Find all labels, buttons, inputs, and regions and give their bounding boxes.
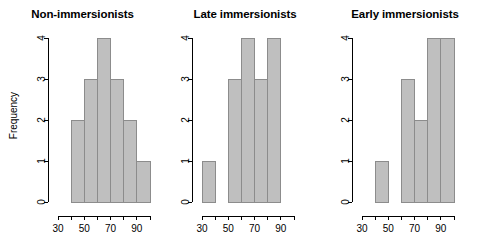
x-axis-tick-label: 70 xyxy=(105,223,117,234)
histogram-bar xyxy=(111,79,124,202)
histogram-figure: Non-immersionists Frequency 012343050709… xyxy=(0,0,485,246)
histogram-bar xyxy=(84,79,97,202)
x-axis-tick-label: 70 xyxy=(249,223,261,234)
panel-late-immersionists: Late immersionists 0123430507090 xyxy=(165,0,325,246)
y-axis-tick-label: 4 xyxy=(36,35,47,41)
x-axis-tick-label: 90 xyxy=(131,223,143,234)
plot-svg: 0123430507090 xyxy=(0,0,165,246)
plot-svg: 0123430507090 xyxy=(325,0,485,246)
histogram-bar xyxy=(255,79,268,202)
histogram-bar xyxy=(375,161,388,202)
y-axis-tick-label: 1 xyxy=(36,158,47,164)
panel-early-immersionists: Early immersionists 0123430507090 xyxy=(325,0,485,246)
x-axis-tick-label: 30 xyxy=(196,223,208,234)
y-axis-tick-label: 2 xyxy=(36,117,47,123)
histogram-bar xyxy=(401,79,414,202)
plot-area: 0123430507090 xyxy=(325,0,485,246)
y-axis-tick-label: 1 xyxy=(340,158,351,164)
y-axis-tick-label: 0 xyxy=(340,199,351,205)
y-axis-tick-label: 3 xyxy=(36,76,47,82)
x-axis-tick-label: 70 xyxy=(409,223,421,234)
plot-svg: 0123430507090 xyxy=(165,0,325,246)
histogram-bar xyxy=(137,161,150,202)
histogram-bar xyxy=(228,79,241,202)
y-axis-tick-label: 2 xyxy=(180,117,191,123)
y-axis-tick-label: 1 xyxy=(180,158,191,164)
histogram-bar xyxy=(124,120,137,202)
y-axis-tick-label: 0 xyxy=(36,199,47,205)
x-axis-tick-label: 30 xyxy=(52,223,64,234)
plot-area: 0123430507090 xyxy=(0,0,165,246)
histogram-bar xyxy=(202,161,215,202)
histogram-bar xyxy=(415,120,428,202)
x-axis-tick-label: 50 xyxy=(79,223,91,234)
histogram-bar xyxy=(428,38,441,202)
x-axis-tick-label: 90 xyxy=(275,223,287,234)
panel-non-immersionists: Non-immersionists Frequency 012343050709… xyxy=(0,0,165,246)
y-axis-tick-label: 4 xyxy=(340,35,351,41)
y-axis-tick-label: 2 xyxy=(340,117,351,123)
plot-area: 0123430507090 xyxy=(165,0,325,246)
x-axis-tick-label: 50 xyxy=(383,223,395,234)
histogram-bar xyxy=(241,38,254,202)
x-axis-tick-label: 30 xyxy=(356,223,368,234)
histogram-bar xyxy=(71,120,84,202)
histogram-bar xyxy=(441,38,454,202)
histogram-bar xyxy=(97,38,110,202)
x-axis-tick-label: 50 xyxy=(223,223,235,234)
x-axis-tick-label: 90 xyxy=(435,223,447,234)
y-axis-tick-label: 3 xyxy=(180,76,191,82)
histogram-bar xyxy=(268,38,281,202)
y-axis-tick-label: 3 xyxy=(340,76,351,82)
y-axis-tick-label: 4 xyxy=(180,35,191,41)
y-axis-tick-label: 0 xyxy=(180,199,191,205)
